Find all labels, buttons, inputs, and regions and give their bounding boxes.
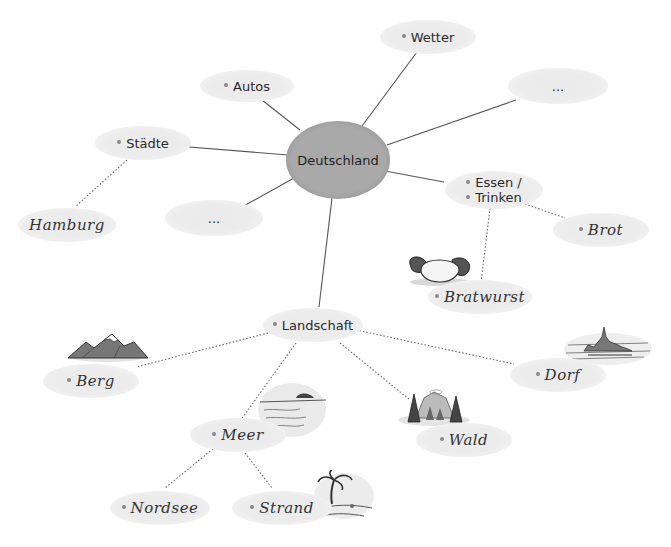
bullet-icon bbox=[466, 195, 470, 199]
node-wetter: Wetter bbox=[380, 20, 476, 54]
bullet-icon bbox=[224, 83, 228, 87]
node-label: Strand bbox=[259, 501, 314, 516]
node-autos: Autos bbox=[200, 70, 294, 102]
node-meer: Meer bbox=[190, 418, 286, 452]
forest-icon bbox=[396, 386, 472, 428]
bullet-icon bbox=[536, 372, 540, 376]
node-wald: Wald bbox=[416, 423, 512, 457]
bullet-icon bbox=[466, 180, 470, 184]
bullet-icon bbox=[117, 140, 121, 144]
node-label: Autos bbox=[233, 79, 270, 94]
node-label: Wald bbox=[449, 433, 488, 448]
bullet-icon bbox=[212, 432, 216, 436]
node-blank-left: ... bbox=[165, 200, 263, 236]
node-label: Berg bbox=[76, 374, 115, 389]
bullet-icon bbox=[273, 322, 277, 326]
node-label: ... bbox=[208, 211, 220, 226]
node-label: Bratwurst bbox=[444, 290, 525, 305]
node-label: Meer bbox=[221, 428, 263, 443]
node-label: Städte bbox=[126, 136, 169, 151]
node-label: Dorf bbox=[545, 368, 581, 383]
node-label: Landschaft bbox=[282, 318, 353, 333]
center-label: Deutschland bbox=[297, 153, 379, 168]
node-label-line1: Essen / bbox=[475, 175, 522, 190]
bullet-icon bbox=[440, 437, 444, 441]
node-strand: Strand bbox=[232, 491, 332, 525]
bullet-icon bbox=[435, 294, 439, 298]
node-brot: Brot bbox=[553, 213, 649, 247]
node-hamburg: Hamburg bbox=[18, 208, 116, 242]
node-nordsee: Nordsee bbox=[110, 491, 210, 525]
node-blank-right: ... bbox=[508, 68, 608, 104]
center-node-deutschland: Deutschland bbox=[286, 121, 390, 199]
node-label-line2: Trinken bbox=[475, 190, 522, 205]
node-bratwurst: Bratwurst bbox=[428, 280, 532, 314]
node-landschaft: Landschaft bbox=[263, 308, 363, 342]
bullet-icon bbox=[122, 505, 126, 509]
node-dorf: Dorf bbox=[510, 358, 606, 392]
node-label: ... bbox=[552, 79, 564, 94]
node-label: Wetter bbox=[411, 30, 455, 45]
bullet-icon bbox=[579, 227, 583, 231]
node-essen-trinken: Essen / Trinken bbox=[445, 171, 543, 209]
node-label: Hamburg bbox=[29, 218, 105, 233]
node-staedte: Städte bbox=[95, 126, 191, 160]
node-label: Nordsee bbox=[131, 501, 199, 516]
bullet-icon bbox=[67, 378, 71, 382]
mountain-icon bbox=[64, 332, 150, 362]
node-label: Brot bbox=[588, 223, 623, 238]
bullet-icon bbox=[250, 505, 254, 509]
bullet-icon bbox=[402, 34, 406, 38]
node-berg: Berg bbox=[43, 364, 139, 398]
